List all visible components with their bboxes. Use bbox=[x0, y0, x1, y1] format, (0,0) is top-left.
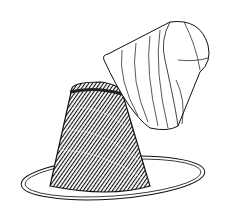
illustration bbox=[0, 0, 226, 216]
pudding-drawing bbox=[0, 0, 226, 216]
